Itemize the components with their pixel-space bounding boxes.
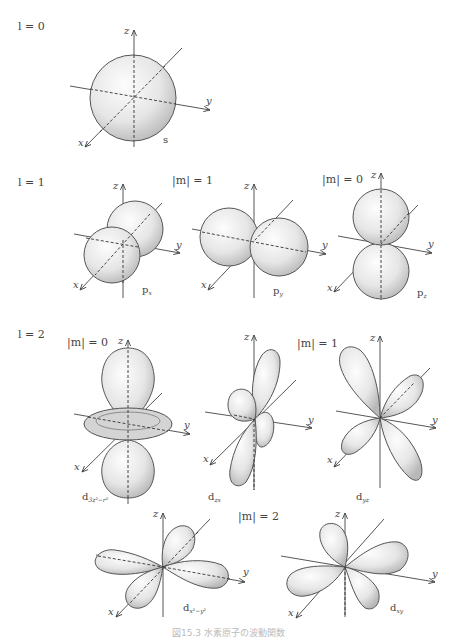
x-axis-label: x <box>73 279 79 290</box>
y-axis-label: y <box>205 95 212 106</box>
orbital-label-py: py <box>273 285 283 298</box>
row-label-l1: l = 1 <box>18 176 45 189</box>
orbital-dxy: z y x dxy <box>281 508 438 618</box>
z-axis-label: z <box>334 508 341 519</box>
z-axis-label: z <box>243 331 250 342</box>
z-axis-label: z <box>152 508 159 519</box>
z-axis-label: z <box>117 335 124 346</box>
orbital-label-dzx: dzx <box>208 491 222 503</box>
row-label-l2: l = 2 <box>18 328 45 341</box>
orbital-diagram: l = 0 l = 1 l = 2 z y x s |m| = 1 z y x … <box>0 0 451 641</box>
m-label-d1: |m| = 1 <box>297 337 338 351</box>
orbital-dzx: z y x dzx <box>203 331 314 503</box>
orbital-s: z y x s <box>70 25 212 148</box>
x-axis-label: x <box>327 454 333 465</box>
y-axis-label: y <box>242 566 249 577</box>
y-axis-label: y <box>321 239 328 250</box>
orbital-label-dx2y2: dx²−y² <box>183 602 207 615</box>
orbital-label-dyz: dyz <box>356 491 370 504</box>
x-axis-label: x <box>327 282 333 293</box>
orbital-dz2: z y x d3z²−r² <box>74 335 190 504</box>
orbital-label-px: px <box>142 284 152 296</box>
x-axis-label: x <box>288 607 294 618</box>
x-axis-label: x <box>74 461 80 472</box>
orbital-pz: z y x pz <box>327 169 434 300</box>
orbital-py: z y x py <box>192 180 328 298</box>
orbital-label-dxy: dxy <box>390 602 404 615</box>
x-axis-label: x <box>201 279 207 290</box>
y-axis-label: y <box>431 414 438 425</box>
x-axis-label: x <box>78 137 84 148</box>
m-label-d2: |m| = 2 <box>238 510 279 524</box>
z-axis-label: z <box>369 332 376 343</box>
y-axis-label: y <box>183 419 190 430</box>
x-axis-label: x <box>108 606 114 617</box>
orbital-dx2y2: z y x dx²−y² <box>95 508 249 617</box>
y-axis-label: y <box>431 568 438 579</box>
z-axis-label: z <box>243 180 250 191</box>
row-label-l0: l = 0 <box>18 20 45 33</box>
z-axis-label: z <box>112 180 119 191</box>
z-axis-label: z <box>123 25 130 36</box>
orbital-px: z y x px <box>73 180 182 298</box>
orbital-label-dz2: d3z²−r² <box>82 491 109 503</box>
m-label-p1: |m| = 1 <box>172 174 213 188</box>
y-axis-label: y <box>427 238 434 249</box>
orbital-label-pz: pz <box>417 287 427 299</box>
orbital-dyz: z y x dyz <box>327 332 438 504</box>
m-label-d0: |m| = 0 <box>67 336 108 350</box>
x-axis-label: x <box>203 453 209 464</box>
figure-caption: 図15.3 水素原子の波動関数 <box>172 627 285 638</box>
orbital-label-s: s <box>163 134 168 145</box>
z-axis-label: z <box>370 169 377 180</box>
y-axis-label: y <box>175 239 182 250</box>
y-axis-label: y <box>307 414 314 425</box>
m-label-p0: |m| = 0 <box>322 173 363 187</box>
